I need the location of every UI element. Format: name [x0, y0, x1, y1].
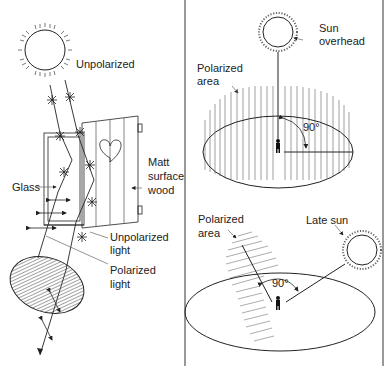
label-polarized-bottom: Polarized — [198, 213, 244, 226]
label-wood: wood — [148, 184, 174, 197]
label-overhead: overhead — [319, 35, 365, 48]
polarized-area-top — [205, 86, 349, 180]
label-area-bottom: area — [198, 227, 220, 240]
label-polarized-top: Polarized — [197, 62, 243, 75]
label-polarized-light-2: light — [110, 278, 130, 291]
label-unpolarized-light-1: Unpolarized — [110, 231, 169, 244]
sun-icon — [18, 23, 72, 77]
label-unpolarized-light-2: light — [110, 244, 130, 257]
light-rays — [38, 80, 94, 355]
label-matt: Matt — [148, 156, 169, 169]
label-angle-top: 90° — [303, 121, 320, 134]
late-sun-icon — [343, 231, 381, 269]
polarized-area-bottom — [226, 232, 278, 341]
polarization-diagram — [0, 0, 389, 366]
person-icon — [276, 139, 280, 153]
polarizing-filter — [2, 247, 92, 324]
sun-overhead-icon — [259, 13, 297, 51]
label-angle-bottom: 90° — [272, 277, 289, 290]
label-sun: Sun — [319, 22, 339, 35]
label-area-top: area — [197, 75, 219, 88]
label-glass: Glass — [12, 181, 40, 194]
label-surface: surface — [148, 170, 184, 183]
label-late-sun: Late sun — [306, 214, 348, 227]
label-polarized-light-1: Polarized — [110, 264, 156, 277]
label-unpolarized: Unpolarized — [76, 58, 135, 71]
person-icon-bottom — [276, 296, 280, 310]
